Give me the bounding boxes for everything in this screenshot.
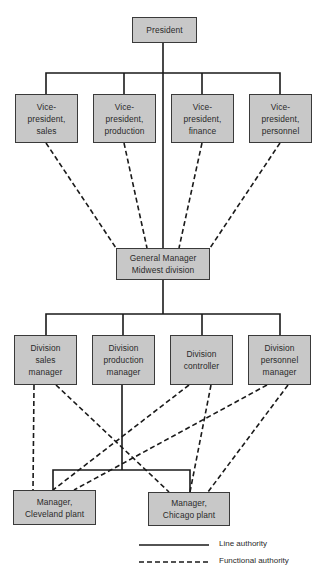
label-manager-cleveland: Manager, Cleveland plant	[25, 496, 84, 520]
functional-controller-cleveland	[53, 385, 189, 490]
box-vp-sales: Vice- president, sales	[15, 94, 78, 143]
label-vp-sales: Vice- president, sales	[28, 101, 66, 137]
functional-vp-personnel-gm	[210, 143, 280, 248]
box-division-personnel: Division personnel manager	[248, 335, 311, 385]
box-manager-cleveland: Manager, Cleveland plant	[13, 490, 96, 525]
legend-functional-authority: Functional authority	[219, 556, 289, 565]
box-president: President	[132, 17, 197, 43]
box-manager-chicago: Manager, Chicago plant	[148, 492, 230, 526]
box-vp-production: Vice- president, production	[93, 94, 156, 143]
functional-sales-chicago	[56, 385, 169, 492]
label-president: President	[146, 24, 182, 36]
functional-sales-cleveland	[33, 385, 34, 490]
functional-vp-finance-gm	[179, 143, 202, 248]
functional-personnel-cleveland	[74, 385, 267, 490]
box-vp-personnel: Vice- president, personnel	[249, 94, 312, 143]
label-division-sales: Division sales manager	[29, 342, 63, 378]
line-division-bar	[46, 314, 280, 335]
legend-line-authority: Line authority	[219, 539, 267, 548]
label-division-personnel: Division personnel manager	[261, 342, 299, 378]
functional-personnel-chicago	[208, 385, 288, 492]
functional-vp-sales-gm	[46, 143, 116, 248]
functional-vp-production-gm	[124, 143, 147, 248]
label-general-manager: General Manager Midwest division	[130, 252, 197, 276]
label-vp-personnel: Vice- president, personnel	[262, 101, 300, 137]
box-general-manager: General Manager Midwest division	[116, 248, 210, 280]
box-vp-finance: Vice- president, finance	[171, 94, 234, 143]
label-division-production: Division production manager	[103, 342, 143, 378]
box-division-production: Division production manager	[92, 335, 155, 385]
box-division-sales: Division sales manager	[14, 335, 77, 385]
functional-controller-chicago	[190, 385, 211, 492]
box-division-controller: Division controller	[170, 335, 233, 385]
label-manager-chicago: Manager, Chicago plant	[163, 497, 216, 521]
label-division-controller: Division controller	[184, 348, 219, 372]
label-vp-finance: Vice- president, finance	[184, 101, 222, 137]
label-vp-production: Vice- president, production	[104, 101, 144, 137]
